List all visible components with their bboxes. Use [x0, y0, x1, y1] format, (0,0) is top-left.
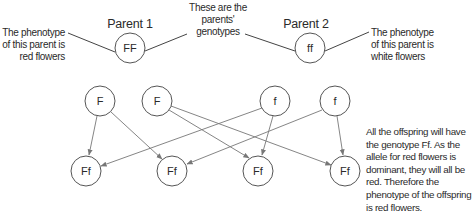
conclusion-line: red. Therefore the — [366, 176, 476, 189]
gamete-node-1: F — [85, 86, 115, 116]
conclusion-line: dominant, they will all be — [366, 164, 476, 177]
leader-parent1-phenotype — [68, 33, 115, 52]
note-line: The phenotype — [371, 27, 471, 39]
arrow-gamete4-offspring4 — [337, 116, 343, 155]
arrows — [89, 106, 343, 166]
conclusion-line: phenotype of the offspring — [366, 189, 476, 202]
parent1-title: Parent 1 — [100, 17, 160, 31]
parent2-phenotype-note: The phenotype of this parent is white fl… — [371, 27, 471, 63]
leader-genotype-to-parent2 — [245, 34, 295, 51]
genotype-callout: These are the parents' genotypes — [186, 2, 250, 38]
arrow-gamete4-offspring2 — [187, 110, 322, 164]
offspring-node-3: Ff — [243, 156, 273, 186]
gamete-allele: F — [97, 95, 104, 107]
offspring-node-2: Ff — [157, 156, 187, 186]
arrow-gamete1-offspring2 — [111, 112, 162, 159]
note-line: white flowers — [371, 51, 471, 63]
callout-line: These are the — [186, 2, 250, 14]
conclusion-line: All the offspring will have — [366, 126, 476, 139]
conclusion-text: All the offspring will have the genotype… — [366, 126, 476, 214]
note-line: The phenotype — [0, 27, 65, 39]
parent1-phenotype-note: The phenotype of this parent is red flow… — [0, 27, 65, 63]
leader-parent2-phenotype — [325, 32, 369, 51]
parent1-genotype: FF — [123, 42, 137, 54]
parent1-node: FF — [115, 33, 145, 63]
gamete-node-4: f — [320, 86, 350, 116]
conclusion-line: the genotype Ff. As the — [366, 139, 476, 152]
offspring-genotype: Ff — [81, 165, 92, 177]
offspring-genotype: Ff — [340, 165, 351, 177]
parent2-node: ff — [295, 33, 325, 63]
arrow-gamete1-offspring1 — [89, 116, 97, 155]
conclusion-line: is red flowers. — [366, 202, 476, 215]
gamete-node-3: f — [260, 86, 290, 116]
offspring-genotype: Ff — [253, 165, 264, 177]
parent2-genotype: ff — [307, 42, 314, 54]
offspring-node-1: Ff — [71, 156, 101, 186]
arrow-gamete3-offspring3 — [262, 116, 273, 155]
gamete-allele: F — [154, 95, 161, 107]
arrow-gamete3-offspring1 — [101, 108, 262, 166]
callout-line: parents' — [186, 14, 250, 26]
conclusion-line: allele for red flowers is — [366, 151, 476, 164]
parent2-title: Parent 2 — [276, 17, 336, 31]
callout-line: genotypes — [186, 26, 250, 38]
offspring-genotype: Ff — [167, 165, 178, 177]
gamete-node-2: F — [142, 86, 172, 116]
leader-genotype-to-parent1 — [145, 34, 187, 51]
arrow-gamete2-offspring4 — [171, 106, 331, 165]
note-line: red flowers — [0, 51, 65, 63]
note-line: of this parent is — [371, 39, 471, 51]
offspring-node-4: Ff — [330, 156, 360, 186]
note-line: of this parent is — [0, 39, 65, 51]
